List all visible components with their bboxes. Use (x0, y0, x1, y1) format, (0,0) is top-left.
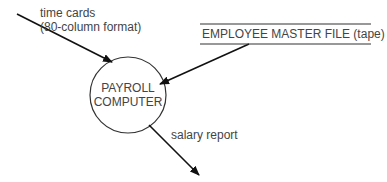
time-cards-line1: time cards (40, 6, 141, 20)
process-label: PAYROLL COMPUTER (92, 81, 164, 109)
time-cards-label: time cards (80-column format) (40, 6, 141, 34)
master-file-label: EMPLOYEE MASTER FILE (tape) (202, 27, 385, 41)
process-line2: COMPUTER (92, 95, 164, 109)
master-file-arrow (160, 44, 249, 84)
salary-report-label: salary report (171, 128, 238, 142)
time-cards-line2: (80-column format) (40, 20, 141, 34)
process-line1: PAYROLL (92, 81, 164, 95)
